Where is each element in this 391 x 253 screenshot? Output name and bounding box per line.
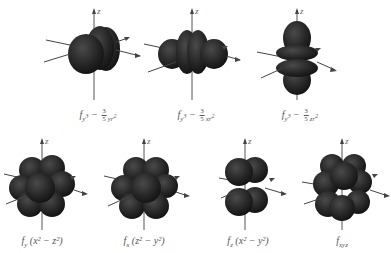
z-axis-label: z <box>300 6 304 16</box>
orbital-fz-x2-y2: z <box>205 132 295 232</box>
axis-arrow-icon <box>184 193 190 198</box>
label-minus: − <box>293 109 300 120</box>
orbital-fxyz: z <box>300 132 391 232</box>
orbital-fx3: z <box>142 4 242 104</box>
z-axis-arrow-icon <box>190 8 194 14</box>
orbital-fy-x2-z2-graphic <box>0 132 90 232</box>
label-sub: y <box>24 241 27 249</box>
orbital-fz3: z <box>247 4 347 104</box>
z-axis-arrow-icon <box>40 138 44 144</box>
orbital-fx-z2-y2: z <box>100 132 190 232</box>
orbital-fxyz-graphic <box>300 132 391 232</box>
label-paren: (x² − z²) <box>30 235 63 246</box>
label-sub: xyz <box>339 241 348 249</box>
x-axis-front <box>44 54 70 62</box>
label-paren: (x² − y²) <box>235 235 268 246</box>
frac-den: 5 <box>101 116 107 123</box>
lobe <box>131 173 161 203</box>
orbital-fy3-graphic <box>44 4 144 104</box>
side-lobe-right <box>200 39 228 69</box>
orbital-fx-z2-y2-graphic <box>100 132 190 232</box>
label-sup: 3 <box>85 112 88 118</box>
label-paren: (z² − y²) <box>132 235 165 246</box>
z-axis-label: z <box>45 136 49 146</box>
axis-arrow-icon <box>330 67 337 72</box>
orbital-label-fy-x2-z2: fy (x² − z²) <box>21 235 62 249</box>
frac-den: 5 <box>303 116 309 123</box>
label-tail-sup: 2 <box>113 112 116 118</box>
label-tail-sup: 2 <box>211 112 214 118</box>
lobe <box>330 162 358 190</box>
axis-arrow-icon <box>384 193 390 198</box>
orbital-label-fy3: fy3 − 35yr2 <box>80 108 117 123</box>
orbital-label-fz3: fy3 − 35zr2 <box>282 108 318 123</box>
label-sup: 3 <box>183 112 186 118</box>
label-minus: − <box>91 109 98 120</box>
frac-den: 5 <box>199 116 205 123</box>
z-axis-label: z <box>195 6 199 16</box>
axis-arrow-icon <box>82 191 88 196</box>
axis-arrow-icon <box>281 191 287 196</box>
lobe <box>329 195 355 221</box>
label-sup: 3 <box>288 112 291 118</box>
orbital-fy-x2-z2: z <box>0 132 90 232</box>
z-axis-arrow-icon <box>340 138 344 144</box>
z-axis-label: z <box>97 6 101 16</box>
lobe <box>25 173 55 203</box>
orbital-fz3-graphic <box>247 4 347 104</box>
axis-arrow-icon <box>269 178 275 182</box>
z-axis-arrow-icon <box>92 8 96 14</box>
z-axis-arrow-icon <box>295 8 299 14</box>
upper-ring <box>276 45 318 61</box>
label-fraction: 35 <box>199 108 205 123</box>
orbital-label-fx-z2-y2: fx (z² − y²) <box>123 235 164 249</box>
orbital-label-fz-x2-y2: fz (x² − y²) <box>227 235 268 249</box>
lobe <box>225 188 253 216</box>
label-sub: z <box>230 241 233 249</box>
orbital-label-fxyz: fxyz <box>336 235 348 249</box>
axis-arrow-icon <box>235 57 241 62</box>
orbital-label-fx3: fy3 − 35xr2 <box>178 108 215 123</box>
label-tail-sup: 2 <box>315 112 318 118</box>
z-axis-label: z <box>248 136 252 146</box>
axis-arrow-icon <box>135 53 141 58</box>
orbital-fz-x2-y2-graphic <box>205 132 295 232</box>
front-lobe <box>68 34 104 74</box>
z-axis-arrow-icon <box>142 138 146 144</box>
label-sub: x <box>126 241 129 249</box>
z-axis-label: z <box>147 136 151 146</box>
label-fraction: 35 <box>101 108 107 123</box>
label-fraction: 35 <box>303 108 309 123</box>
label-minus: − <box>189 109 196 120</box>
z-axis-arrow-icon <box>243 138 247 144</box>
axis-arrow-icon <box>372 174 378 178</box>
z-axis-label: z <box>345 136 349 146</box>
lobe <box>225 158 253 186</box>
orbital-fx3-graphic <box>142 4 242 104</box>
orbital-fy3: z <box>44 4 144 104</box>
